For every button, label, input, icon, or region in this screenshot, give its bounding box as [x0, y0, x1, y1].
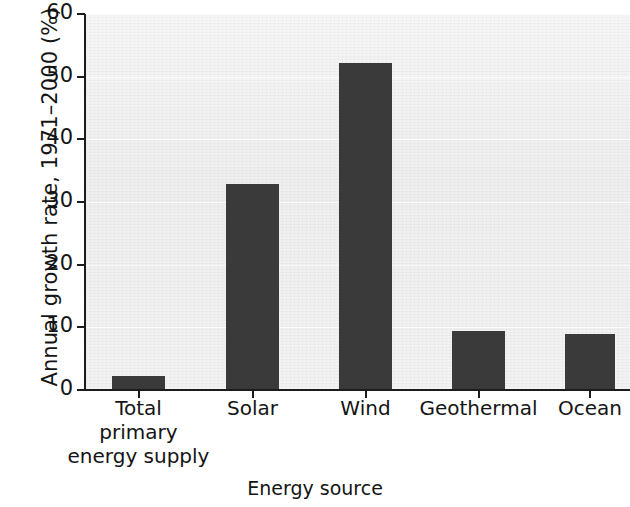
y-tick-label: 30: [1, 188, 73, 212]
x-tick-label-line: primary: [64, 420, 214, 444]
y-tick-label: 20: [1, 251, 73, 275]
y-tick-mark: [77, 264, 85, 266]
y-tick-label: 50: [1, 63, 73, 87]
y-tick-label: 60: [1, 0, 73, 24]
x-axis-title: Energy source: [0, 477, 630, 499]
y-tick-label: 40: [1, 125, 73, 149]
y-tick-mark: [77, 201, 85, 203]
x-tick-label-line: Ocean: [515, 396, 630, 420]
y-tick-mark: [77, 138, 85, 140]
y-tick-mark: [77, 13, 85, 15]
y-tick-mark: [77, 389, 85, 391]
y-axis-ticks: 0102030405060: [0, 0, 630, 400]
bar-chart: Annual growth rate, 1971–2000 (%) 010203…: [0, 0, 630, 507]
y-tick-label: 10: [1, 313, 73, 337]
y-tick-label: 0: [1, 376, 73, 400]
x-tick-label-line: energy supply: [64, 444, 214, 468]
y-tick-mark: [77, 76, 85, 78]
x-tick-label: Ocean: [515, 396, 630, 420]
y-tick-mark: [77, 326, 85, 328]
